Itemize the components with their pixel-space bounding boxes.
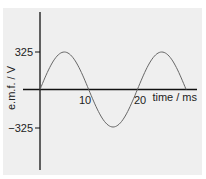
emf-chart: 325 −325 10 20 time / ms e.m.f. / V <box>0 0 206 179</box>
x-tick-label-10: 10 <box>79 94 91 106</box>
y-tick-label-325: 325 <box>15 46 33 58</box>
x-axis-label: time / ms <box>152 91 197 103</box>
x-tick-label-20: 20 <box>134 94 146 106</box>
y-axis-label: e.m.f. / V <box>5 65 17 110</box>
y-tick-label-neg325: −325 <box>8 122 33 134</box>
